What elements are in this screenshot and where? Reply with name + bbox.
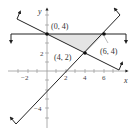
vertex-6-4 (102, 32, 106, 36)
vertex-0-4 (45, 32, 49, 36)
shade-arrow-bottomleft (11, 118, 16, 124)
tick-x-neg2: −2 (21, 74, 29, 82)
shade-arrow-topright (115, 9, 120, 15)
point-label-0-4: (0, 4) (51, 22, 69, 31)
graph-canvas: (0, 4) (6, 4) (4, 2) y x −2 2 4 6 2 −4 (0, 0, 131, 130)
point-label-4-2: (4, 2) (54, 53, 72, 62)
shade-arrow-bottomright (119, 63, 122, 70)
point-label-6-4: (6, 4) (100, 47, 118, 56)
tick-x-4: 4 (83, 74, 87, 82)
y-axis-label: y (37, 7, 42, 16)
label-leader (104, 36, 108, 43)
shaded-region (47, 34, 104, 53)
tick-y-2: 2 (40, 50, 44, 58)
tick-x-2: 2 (64, 74, 68, 82)
shade-arrow-topleft (17, 12, 20, 19)
line-increasing (16, 15, 120, 124)
tick-x-6: 6 (102, 74, 106, 82)
linear-inequality-graph: (0, 4) (6, 4) (4, 2) y x −2 2 4 6 2 −4 (0, 0, 131, 130)
x-axis-label: x (123, 76, 128, 85)
tick-y-neg4: −4 (34, 105, 42, 113)
vertex-4-2 (83, 51, 87, 55)
